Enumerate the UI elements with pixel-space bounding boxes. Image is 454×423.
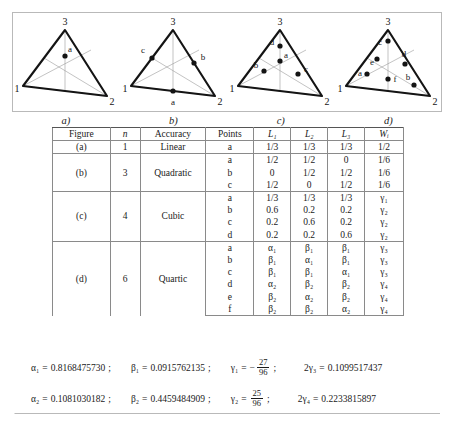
cell-point: a (206, 154, 254, 167)
column-header-points: Points (206, 128, 254, 141)
separator-semicolon: ; (270, 363, 282, 373)
quadrature-table-container: Figure n Accuracy Points L₁ L₂ L₃ Wᵢ (a)… (52, 127, 404, 316)
cell-l2: 0 (291, 179, 328, 192)
triangle-svg-d: 3 1 2 a b c d e f (336, 12, 441, 112)
cell-l1: β₂ (254, 303, 291, 316)
equals-sign: = (310, 394, 321, 404)
cell-w: γ₂ (365, 204, 404, 216)
cell-l1: β₂ (254, 291, 291, 303)
cell-l1: 0.2 (254, 216, 291, 228)
constants-row-2: α₂ = 0.1081030182 ; β₂ = 0.4459484909 ; … (15, 383, 440, 414)
cell-l3: 1/3 (328, 192, 365, 205)
cell-l1: 0.2 (254, 229, 291, 242)
cell-figure-b: (b) (53, 154, 111, 192)
quadrature-table: Figure n Accuracy Points L₁ L₂ L₃ Wᵢ (a)… (52, 127, 404, 316)
alpha1-value: 0.8168475730 (51, 363, 106, 373)
point-label-c: c (378, 37, 382, 47)
cell-w: γ₃ (365, 241, 404, 254)
quadrature-point-c-d (278, 43, 283, 48)
figure-caption-a: a) (13, 115, 118, 126)
figure-page: 3 1 2 a a) 3 1 2 (0, 0, 454, 423)
cell-point: d (206, 278, 254, 290)
triangle-diagram-b: 3 1 2 a b c b) (121, 12, 226, 125)
separator-semicolon: ; (105, 394, 117, 404)
cell-w: γ₄ (365, 291, 404, 303)
cell-w: γ₃ (365, 266, 404, 278)
quadrature-point-c-b (262, 68, 267, 73)
gamma1-definition: γ₁ = − 27 96 ; (231, 358, 282, 377)
cell-point: e (206, 291, 254, 303)
triangle-diagram-c: 3 1 2 a b c d c) (228, 12, 333, 125)
column-header-l1: L₁ (254, 128, 291, 141)
cell-point: f (206, 303, 254, 316)
cell-w: 1/6 (365, 154, 404, 167)
separator-semicolon: ; (264, 394, 276, 404)
vertex-label-1: 1 (230, 83, 235, 94)
cell-accuracy-b: Quadratic (140, 154, 206, 192)
triangle-svg-a: 3 1 2 a (13, 12, 118, 112)
cell-w: γ₄ (365, 278, 404, 290)
cell-l1: β₁ (254, 266, 291, 278)
constants-block: α₁ = 0.8168475730 ; β₁ = 0.0915762135 ; … (14, 352, 440, 414)
cell-l2: 0.2 (291, 204, 328, 216)
column-header-l2: L₂ (291, 128, 328, 141)
fraction-numerator: 27 (257, 358, 270, 367)
equals-sign: = (238, 363, 249, 373)
table-row: (c) 4 Cubic a 1/3 1/3 1/3 γ₁ (53, 192, 404, 205)
cell-l1: 1/3 (254, 141, 291, 154)
quadrature-point-a-a (63, 53, 68, 58)
median-lines-b (131, 30, 215, 96)
alpha2-value: 0.1081030182 (51, 394, 106, 404)
cell-l3: β₂ (328, 278, 365, 290)
cell-n-d: 6 (110, 241, 140, 315)
separator-semicolon: ; (105, 363, 117, 373)
point-label-e: e (370, 57, 374, 67)
quadrature-point-d-b (411, 82, 416, 87)
point-label-a: a (358, 68, 362, 78)
separator-semicolon: ; (205, 363, 217, 373)
column-header-accuracy: Accuracy (140, 128, 206, 141)
cell-l3: 1/2 (328, 179, 365, 192)
cell-w: 1/6 (365, 179, 404, 192)
twogamma4-value: 0.2233815897 (321, 394, 376, 404)
cell-l2: 1/3 (291, 141, 328, 154)
gamma2-definition: γ₂ = 25 96 ; (231, 389, 276, 408)
twogamma4-symbol: 2γ₄ (298, 394, 310, 404)
figure-caption-b: b) (121, 115, 226, 126)
twogamma4-definition: 2γ₄ = 0.2233815897 (298, 394, 376, 404)
alpha1-definition: α₁ = 0.8168475730 ; (31, 363, 117, 373)
beta2-value: 0.4459484909 (150, 394, 205, 404)
cell-point: a (206, 192, 254, 205)
figure-caption-c: c) (228, 115, 333, 126)
cell-n-c: 4 (110, 192, 140, 242)
cell-l2: α₂ (291, 291, 328, 303)
fraction-denominator: 96 (257, 367, 270, 377)
figure-caption-d: d) (336, 115, 441, 126)
cell-point: b (206, 254, 254, 266)
quadrature-point-d-a (364, 71, 369, 76)
constants-row-1: α₁ = 0.8168475730 ; β₁ = 0.0915762135 ; … (15, 352, 440, 383)
vertex-label-3: 3 (385, 16, 390, 27)
quadrature-point-d-e (374, 56, 379, 61)
twogamma3-symbol: 2γ₃ (304, 363, 316, 373)
cell-l1: 1/2 (254, 179, 291, 192)
point-label-a: a (171, 97, 175, 107)
cell-l2: 1/3 (291, 192, 328, 205)
cell-w: γ₁ (365, 192, 404, 205)
cell-l2: α₁ (291, 254, 328, 266)
point-label-b: b (254, 60, 259, 70)
column-header-n: n (110, 128, 140, 141)
cell-point: c (206, 179, 254, 192)
cell-w: γ₂ (365, 216, 404, 228)
cell-l3: β₁ (328, 241, 365, 254)
triangle-diagram-row: 3 1 2 a a) 3 1 2 (12, 12, 442, 127)
cell-point: d (206, 229, 254, 242)
equals-sign: = (39, 394, 50, 404)
cell-l3: 1/3 (328, 141, 365, 154)
column-header-wi: Wᵢ (365, 128, 404, 141)
point-label-d: d (270, 37, 275, 47)
minus-sign: − (250, 363, 255, 373)
beta2-symbol: β₂ (131, 394, 139, 404)
cell-w: γ₃ (365, 254, 404, 266)
equals-sign: = (39, 363, 50, 373)
